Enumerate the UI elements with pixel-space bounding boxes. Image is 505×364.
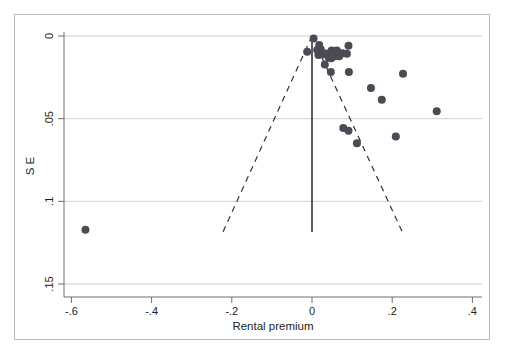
data-point <box>327 68 335 76</box>
gridlines <box>64 36 482 284</box>
y-tick-label-1: .05 <box>43 111 55 126</box>
data-point <box>345 68 353 76</box>
funnel-limit-left <box>223 36 312 232</box>
data-points <box>81 34 440 233</box>
data-point <box>353 139 361 147</box>
axis-lines <box>64 32 482 297</box>
data-point <box>344 127 352 135</box>
data-point <box>335 52 343 60</box>
x-tick-label-0: -.6 <box>65 305 78 317</box>
data-point <box>344 42 352 50</box>
x-axis-ticks <box>71 297 472 303</box>
x-tick-label-3: 0 <box>309 305 315 317</box>
data-point <box>392 133 400 141</box>
x-tick-label-1: -.4 <box>145 305 158 317</box>
funnel-plot-canvas: 0.05.1.15 -.6-.4-.20.2.4 S E Rental prem… <box>0 0 505 364</box>
data-point <box>81 226 89 234</box>
y-tick-label-2: .1 <box>43 197 55 206</box>
y-tick-label-0: 0 <box>43 33 55 39</box>
x-tick-label-5: .4 <box>468 305 477 317</box>
y-tick-label-3: .15 <box>43 276 55 291</box>
y-axis-ticks <box>58 36 64 284</box>
x-tick-label-2: -.2 <box>225 305 238 317</box>
funnel-plot-figure: 0.05.1.15 -.6-.4-.20.2.4 S E Rental prem… <box>0 0 505 364</box>
y-axis-title: S E <box>24 156 36 175</box>
data-point <box>343 50 351 58</box>
x-axis-tick-labels: -.6-.4-.20.2.4 <box>65 305 477 317</box>
x-axis-title: Rental premium <box>232 320 313 332</box>
data-point <box>433 107 441 115</box>
data-point <box>367 84 375 92</box>
data-point <box>303 48 311 56</box>
data-point <box>310 34 318 42</box>
y-axis-tick-labels: 0.05.1.15 <box>43 33 55 292</box>
x-tick-label-4: .2 <box>388 305 397 317</box>
data-point <box>378 96 386 104</box>
data-point <box>321 60 329 68</box>
data-point <box>399 70 407 78</box>
